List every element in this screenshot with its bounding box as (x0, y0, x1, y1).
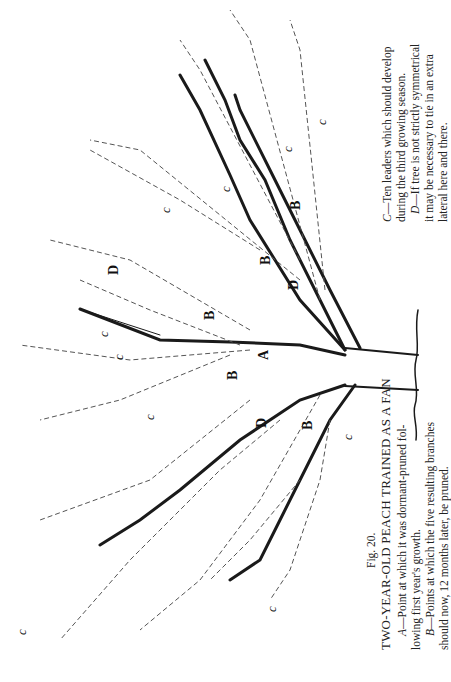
legend-a-key: A (396, 629, 408, 636)
legend-b-key: B (424, 629, 436, 636)
legend-a-line2: lowing first year's growth. (409, 529, 423, 650)
legend-d-key: D (409, 206, 421, 214)
legend-c-line1: C—Ten leaders which should develop (380, 47, 394, 223)
label-c-9: c (264, 606, 279, 612)
label-c-1: c (96, 331, 111, 337)
label-c-5: c (314, 119, 329, 125)
label-c-6: c (142, 414, 157, 420)
legend-c-line2: during the third growing season. (394, 73, 408, 222)
legend-d-line3: lateral here and there. (436, 122, 450, 222)
label-b-5: B (300, 421, 315, 430)
label-c-3: c (218, 186, 233, 192)
legend-c-text1: —Ten leaders which should develop (381, 47, 393, 215)
legend-a-text1: —Point at which it was dormant-pruned fo… (396, 425, 408, 629)
label-c-10: c (14, 629, 29, 635)
legend-b-line2: should now, 12 months later, be pruned. (437, 466, 451, 650)
label-c-8: c (340, 434, 355, 440)
legend-d-line2: it may be necessary to tie in an extra (422, 54, 436, 222)
label-a: A (256, 349, 271, 360)
legend-d-text1: —If tree is not strictly symmetrical (409, 44, 421, 206)
label-b-2: B (258, 256, 273, 265)
label-b-1: B (202, 311, 217, 320)
legend-d-line1: D—If tree is not strictly symmetrical (408, 44, 422, 214)
label-d-1: D (106, 265, 121, 275)
legend-a-line1: A—Point at which it was dormant-pruned f… (395, 425, 409, 636)
label-b-4: B (225, 371, 240, 380)
label-d-2: D (286, 280, 301, 290)
legend-b-line1: B—Points at which the five resulting bra… (423, 422, 437, 636)
label-c-7: c (111, 354, 126, 360)
label-c-2: c (158, 207, 173, 213)
label-d-3: D (254, 418, 269, 428)
figure-number: Fig. 20. (364, 533, 378, 568)
label-c-4: c (280, 146, 295, 152)
label-b-3: B (288, 201, 303, 210)
legend-b-text1: —Points at which the five resulting bran… (424, 422, 436, 629)
figure-title: TWO-YEAR-OLD PEACH TRAINED AS A FAN (378, 378, 394, 650)
legend-c-key: C (381, 214, 393, 222)
